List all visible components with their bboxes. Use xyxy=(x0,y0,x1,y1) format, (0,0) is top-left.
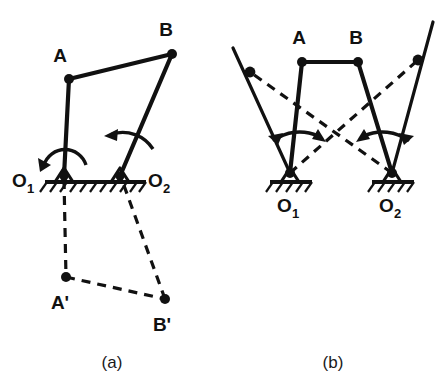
link-coupler-a-b xyxy=(69,54,172,79)
diagram-b-group: A B O 1 O 2 xyxy=(233,22,433,221)
label-pivot-o2-letter-b: O xyxy=(379,195,394,216)
dashed-coupler-aprime-bprime xyxy=(66,277,165,299)
label-point-a-b: A xyxy=(292,27,306,48)
label-point-b: B xyxy=(159,19,173,40)
rotation-arrowhead-o1-b-right xyxy=(312,129,326,142)
label-pivot-o2-b: O 2 xyxy=(379,195,401,221)
joint-left-node xyxy=(245,67,256,78)
label-pivot-o1-letter: O xyxy=(12,170,27,191)
rotation-arrow-o2-a xyxy=(104,129,153,149)
extension-line-right xyxy=(392,22,433,173)
joint-a-b xyxy=(297,57,307,67)
pivot-joint-o2-b xyxy=(387,168,397,178)
joint-right-node xyxy=(413,55,424,66)
rotation-arrowhead-o2-b-left xyxy=(356,129,370,142)
dashed-crank-o1-aprime xyxy=(64,180,66,277)
dashed-diagonal-o1-right-node xyxy=(290,60,418,173)
label-pivot-o1-subscript: 1 xyxy=(27,181,34,196)
diagram-b-extension-links xyxy=(233,22,433,173)
diagram-a-group: A B A' B' O 1 O 2 xyxy=(12,19,177,335)
link-crank-o1-a xyxy=(64,79,69,176)
pivot-joint-o1-b xyxy=(285,168,295,178)
label-pivot-o2-letter: O xyxy=(148,170,163,191)
label-point-b-prime: B' xyxy=(153,314,171,335)
diagram-a-ground xyxy=(40,168,146,192)
joint-b-b xyxy=(353,57,363,67)
linkage-figure-svg: A B A' B' O 1 O 2 xyxy=(0,0,448,392)
joint-b xyxy=(167,49,177,59)
joint-a xyxy=(64,74,74,84)
label-point-b-b: B xyxy=(349,27,363,48)
joint-b-prime xyxy=(160,294,170,304)
label-pivot-o1-b: O 1 xyxy=(277,195,299,221)
label-pivot-o2-subscript-b: 2 xyxy=(394,206,401,221)
figure-canvas: A B A' B' O 1 O 2 xyxy=(0,0,448,392)
diagram-b-dashed-links xyxy=(250,60,418,173)
diagram-b-ground-right xyxy=(368,168,414,192)
rotation-arrow-o2-b xyxy=(356,129,414,145)
label-point-a-prime: A' xyxy=(51,292,69,313)
label-pivot-o2-subscript: 2 xyxy=(163,181,170,196)
caption-b: (b) xyxy=(323,353,344,372)
label-pivot-o1-letter-b: O xyxy=(277,195,292,216)
extension-line-left xyxy=(233,48,290,173)
rotation-arrowhead-o2-a xyxy=(104,129,118,141)
link-rocker-b-o2 xyxy=(120,54,172,176)
diagram-b-ground-left xyxy=(266,168,312,192)
rotation-arrow-o1-b xyxy=(268,129,326,145)
label-pivot-o1-a: O 1 xyxy=(12,170,34,196)
pivot-joint-o2 xyxy=(115,171,124,180)
caption-a: (a) xyxy=(102,353,123,372)
link-rocker-b-o2-b xyxy=(358,62,392,173)
diagram-a-dashed-links xyxy=(64,180,165,299)
label-pivot-o2-a: O 2 xyxy=(148,170,170,196)
pivot-joint-o1 xyxy=(59,171,68,180)
link-crank-o1-a-b xyxy=(290,62,302,173)
joint-a-prime xyxy=(61,272,71,282)
dashed-rocker-bprime-o2 xyxy=(122,180,165,299)
dashed-diagonal-o2-left-node xyxy=(250,72,392,173)
label-point-a: A xyxy=(53,45,67,66)
diagram-b-solid-links xyxy=(290,62,392,173)
label-pivot-o1-subscript-b: 1 xyxy=(292,206,299,221)
